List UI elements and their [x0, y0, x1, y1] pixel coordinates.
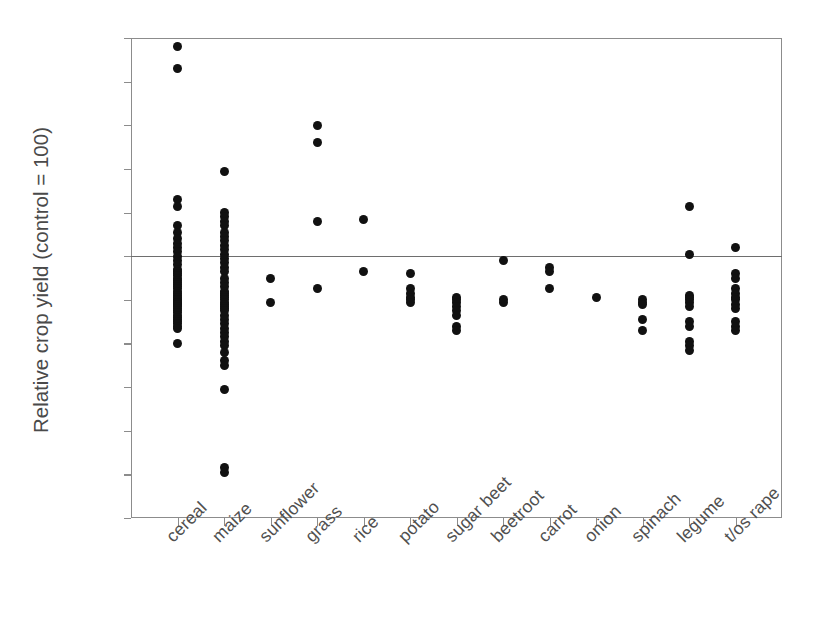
figure-canvas: Relative crop yield (control = 100) 0204… [0, 0, 817, 629]
y-tick-mark [124, 38, 131, 39]
data-point [173, 202, 182, 211]
data-point [731, 326, 740, 335]
data-point [359, 267, 368, 276]
data-point [220, 167, 229, 176]
y-tick-mark [124, 343, 131, 344]
data-point [685, 302, 694, 311]
y-tick-mark [124, 518, 131, 519]
data-point [313, 138, 322, 147]
data-point [638, 315, 647, 324]
y-axis-line [131, 38, 132, 518]
y-axis-title: Relative crop yield (control = 100) [29, 45, 53, 515]
x-axis-category-labels: cerealmaizesunflowergrassricepotatosugar… [131, 518, 782, 629]
y-tick-mark [124, 474, 131, 475]
data-point [313, 284, 322, 293]
data-point [266, 298, 275, 307]
data-point [731, 243, 740, 252]
data-point [220, 468, 229, 477]
data-point [638, 300, 647, 309]
data-point [173, 339, 182, 348]
data-point [220, 361, 229, 370]
data-point [545, 267, 554, 276]
plot-area [131, 38, 782, 518]
data-point [452, 326, 461, 335]
data-point [313, 217, 322, 226]
data-point [685, 202, 694, 211]
data-point [545, 284, 554, 293]
data-point [173, 64, 182, 73]
data-point [638, 326, 647, 335]
y-tick-mark [124, 125, 131, 126]
data-point [731, 304, 740, 313]
data-point [173, 42, 182, 51]
y-tick-mark [124, 82, 131, 83]
data-point [685, 346, 694, 355]
data-point [731, 274, 740, 283]
data-point [685, 250, 694, 259]
plot-top-border [131, 38, 782, 39]
data-point [499, 298, 508, 307]
y-tick-mark [124, 256, 131, 257]
data-point [452, 311, 461, 320]
y-tick-mark [124, 387, 131, 388]
data-point [592, 293, 601, 302]
control-reference-line [131, 256, 782, 257]
data-point [685, 322, 694, 331]
y-tick-mark [124, 169, 131, 170]
data-point [220, 348, 229, 357]
plot-right-border [781, 38, 782, 518]
data-point [499, 256, 508, 265]
y-tick-mark [124, 431, 131, 432]
data-point [406, 298, 415, 307]
data-point [406, 269, 415, 278]
data-point [173, 324, 182, 333]
data-point [220, 385, 229, 394]
y-tick-mark [124, 300, 131, 301]
data-point [266, 274, 275, 283]
data-point [359, 215, 368, 224]
y-tick-mark [124, 213, 131, 214]
data-point [313, 121, 322, 130]
